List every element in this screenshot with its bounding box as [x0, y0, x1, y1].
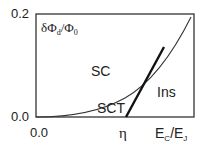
sct-boundary-line: [126, 47, 164, 117]
y-axis-label: δΦd/Φ0: [41, 21, 78, 37]
region-sc-label: SC: [91, 64, 110, 78]
x-tick-eta: η: [119, 126, 127, 141]
y-tick-top: 0.2: [11, 7, 29, 20]
x-axis-label: EC/EJ: [155, 126, 187, 143]
region-ins-label: Ins: [157, 85, 176, 99]
x-tick-zero: 0.0: [30, 126, 48, 139]
y-tick-bottom: 0.0: [11, 110, 29, 123]
region-sct-label: SCT: [97, 101, 125, 115]
